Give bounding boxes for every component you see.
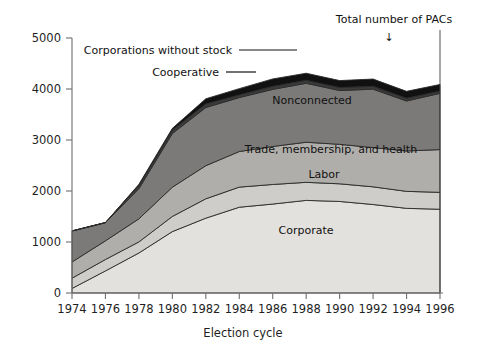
- x-axis-title: Election cycle: [203, 326, 282, 340]
- x-tick-label: 1984: [225, 302, 254, 316]
- chart-figure: 010002000300040005000 197419761978198019…: [0, 0, 484, 356]
- band-label-trade-membership-health: Trade, membership, and health: [244, 143, 417, 156]
- x-tick-label: 1982: [191, 302, 220, 316]
- area-chart-svg: 010002000300040005000 197419761978198019…: [0, 0, 484, 356]
- x-tick-label: 1988: [292, 302, 321, 316]
- annotation-total-number-of-pacs: Total number of PACs: [335, 13, 453, 26]
- x-tick-label: 1996: [425, 302, 454, 316]
- x-tick-label: 1992: [358, 302, 387, 316]
- y-tick-label: 5000: [32, 31, 61, 45]
- callout-label-cooperative: Cooperative: [152, 66, 219, 79]
- x-tick-label: 1994: [392, 302, 421, 316]
- band-label-nonconnected: Nonconnected: [272, 94, 352, 107]
- arrow-down-icon: ↓: [384, 31, 393, 44]
- x-tick-label: 1976: [91, 302, 120, 316]
- x-tick-label: 1974: [57, 302, 86, 316]
- y-tick-label: 2000: [32, 184, 61, 198]
- y-tick-label: 0: [54, 286, 61, 300]
- x-tick-label: 1986: [258, 302, 287, 316]
- y-axis-ticks-group: 010002000300040005000: [32, 31, 72, 300]
- band-label-labor: Labor: [308, 168, 340, 181]
- y-tick-label: 3000: [32, 133, 61, 147]
- y-tick-label: 4000: [32, 82, 61, 96]
- x-tick-label: 1980: [158, 302, 187, 316]
- band-label-corporate: Corporate: [279, 224, 334, 237]
- y-tick-label: 1000: [32, 235, 61, 249]
- x-axis-ticks-group: 1974197619781980198219841986198819901992…: [57, 293, 454, 316]
- x-tick-label: 1978: [124, 302, 153, 316]
- callout-label-corporations-without-stock: Corporations without stock: [84, 44, 233, 57]
- x-tick-label: 1990: [325, 302, 354, 316]
